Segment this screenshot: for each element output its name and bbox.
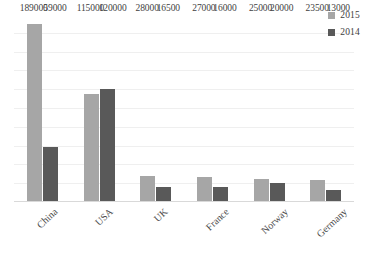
- x-axis-label-usa: USA: [93, 206, 115, 228]
- bar-value-label: 120000: [99, 3, 127, 13]
- plot-area: 1890005900011500012000028000165002700016…: [14, 14, 354, 202]
- bar-value-label: 25000: [249, 3, 272, 13]
- x-axis-tick-labels: ChinaUSAUKFranceNorwayGermany: [14, 203, 354, 255]
- bar-value-label: 27000: [192, 3, 215, 13]
- x-axis-label-norway: Norway: [259, 206, 290, 236]
- bar-group: 2800016500: [127, 14, 184, 202]
- bar-group: 2350013000: [297, 14, 354, 202]
- bar-rect[interactable]: [100, 89, 115, 202]
- bar-usa-2014[interactable]: 120000: [100, 14, 115, 202]
- x-axis-tick: USA: [71, 203, 128, 255]
- bar-rect[interactable]: [270, 183, 285, 202]
- bar-norway-2015[interactable]: 25000: [254, 14, 269, 202]
- legend-swatch-2014: [328, 29, 335, 36]
- x-axis-label-france: France: [204, 206, 231, 233]
- bar-china-2014[interactable]: 59000: [43, 14, 58, 202]
- bar-rect[interactable]: [156, 187, 171, 203]
- bar-group: 18900059000: [14, 14, 71, 202]
- x-axis-tick: Norway: [241, 203, 298, 255]
- bar-value-label: 16500: [157, 3, 180, 13]
- legend-swatch-2015: [328, 12, 335, 19]
- bar-rect[interactable]: [197, 177, 212, 202]
- bar-uk-2015[interactable]: 28000: [140, 14, 155, 202]
- legend-label: 2015: [340, 11, 360, 21]
- bar-rect[interactable]: [43, 147, 58, 202]
- bar-uk-2014[interactable]: 16500: [156, 14, 171, 202]
- bar-value-label: 20000: [270, 3, 293, 13]
- chart-legend: 20152014: [328, 11, 360, 37]
- x-axis-tick: UK: [127, 203, 184, 255]
- bar-value-label: 16000: [213, 3, 236, 13]
- bar-france-2015[interactable]: 27000: [197, 14, 212, 202]
- bar-rect[interactable]: [27, 24, 42, 202]
- bar-china-2015[interactable]: 189000: [27, 14, 42, 202]
- legend-label: 2014: [340, 28, 360, 38]
- bar-groups: 1890005900011500012000028000165002700016…: [14, 14, 354, 202]
- x-axis-line: [14, 201, 354, 202]
- x-axis-label-germany: Germany: [314, 206, 349, 239]
- bar-value-label: 28000: [136, 3, 159, 13]
- x-axis-tick: France: [184, 203, 241, 255]
- bar-value-label: 23500: [306, 3, 329, 13]
- bar-usa-2015[interactable]: 115000: [84, 14, 99, 202]
- bar-group: 2700016000: [184, 14, 241, 202]
- bar-group: 2500020000: [241, 14, 298, 202]
- x-axis-tick: China: [14, 203, 71, 255]
- legend-item-2014[interactable]: 2014: [328, 28, 360, 38]
- bar-chart: 1890005900011500012000028000165002700016…: [0, 0, 368, 258]
- bar-rect[interactable]: [213, 187, 228, 202]
- bar-group: 115000120000: [71, 14, 128, 202]
- x-axis-tick: Germany: [297, 203, 354, 255]
- bar-rect[interactable]: [254, 179, 269, 203]
- bar-rect[interactable]: [84, 94, 99, 202]
- x-axis-label-uk: UK: [151, 206, 169, 224]
- legend-item-2015[interactable]: 2015: [328, 11, 360, 21]
- bar-norway-2014[interactable]: 20000: [270, 14, 285, 202]
- bar-germany-2015[interactable]: 23500: [310, 14, 325, 202]
- bar-germany-2014[interactable]: 13000: [326, 14, 341, 202]
- bar-value-label: 59000: [43, 3, 66, 13]
- x-axis-label-china: China: [35, 206, 60, 230]
- bar-rect[interactable]: [310, 180, 325, 202]
- bar-rect[interactable]: [140, 176, 155, 202]
- bar-france-2014[interactable]: 16000: [213, 14, 228, 202]
